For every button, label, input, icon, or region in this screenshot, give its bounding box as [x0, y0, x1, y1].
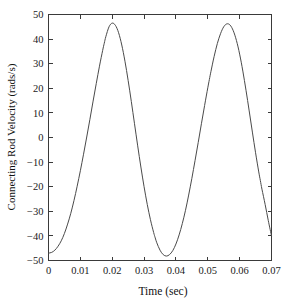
x-tick-label: 0.04	[167, 265, 186, 276]
y-tick-label: −50	[27, 255, 43, 266]
y-tick-label: 10	[33, 108, 44, 119]
x-axis-title: Time (sec)	[138, 285, 187, 298]
x-tick-label: 0.07	[262, 265, 280, 276]
x-tick-label: 0.02	[103, 265, 121, 276]
x-tick-label: 0.05	[199, 265, 217, 276]
y-tick-labels: 50403020100−10−20−30−40−50	[27, 9, 43, 266]
x-tick-label: 0.06	[230, 265, 248, 276]
y-tick-label: 50	[33, 9, 44, 20]
x-tick-label: 0.01	[71, 265, 89, 276]
y-tick-label: −40	[27, 231, 43, 242]
y-tick-label: −30	[27, 206, 43, 217]
y-tick-label: −10	[27, 157, 43, 168]
y-tick-label: 30	[33, 58, 44, 69]
x-tick-labels: 00.010.020.030.040.050.060.07	[46, 265, 281, 276]
x-tick-label: 0.03	[135, 265, 153, 276]
chart-figure: 00.010.020.030.040.050.060.07 5040302010…	[0, 0, 290, 302]
y-axis-title: Connecting Rod Velocity (rads/s)	[5, 63, 18, 210]
plot-background	[48, 14, 272, 261]
y-tick-label: −20	[27, 181, 43, 192]
y-tick-label: 0	[38, 132, 43, 143]
x-tick-label: 0	[46, 265, 51, 276]
line-chart: 00.010.020.030.040.050.060.07 5040302010…	[0, 0, 290, 302]
y-tick-label: 40	[33, 34, 44, 45]
y-tick-label: 20	[33, 83, 44, 94]
